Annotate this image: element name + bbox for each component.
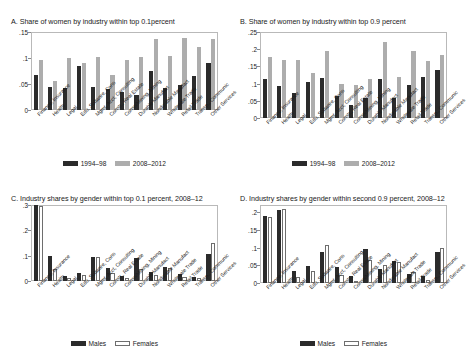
y-axis-tick-label: .3 [12, 202, 28, 209]
y-axis-tick-mark [257, 118, 259, 119]
panel-d-plot: 0.05.1.15.2Finance, InsuranceHealthLegal… [229, 177, 458, 354]
y-axis-tick-label: .1 [12, 55, 28, 62]
legend-swatch-icon [292, 161, 307, 165]
y-axis-tick-label: .25 [241, 29, 257, 36]
y-axis-tick-mark [28, 281, 30, 282]
y-axis-tick-label: .2 [241, 209, 257, 216]
bar [34, 75, 38, 110]
legend-label: 1994–98 [81, 160, 107, 167]
bar-group [31, 205, 45, 281]
legend-swatch-icon [63, 161, 78, 165]
y-axis-tick-label: .15 [241, 226, 257, 233]
y-axis-tick-label: .2 [12, 227, 28, 234]
legend-label: Females [362, 340, 387, 347]
y-axis-tick-label: .1 [241, 80, 257, 87]
bar-group [74, 32, 88, 110]
y-axis-tick-mark [257, 283, 259, 284]
bar [39, 206, 43, 281]
bar [268, 217, 272, 283]
bar-group [60, 32, 74, 110]
bar-group [31, 32, 45, 110]
bar [39, 60, 43, 110]
legend-item[interactable]: Females [344, 340, 387, 347]
legend-label: 1994–98 [310, 160, 336, 167]
y-axis-tick-label: .15 [12, 29, 28, 36]
y-axis-tick-label: 0 [241, 280, 257, 287]
bar-group [289, 32, 303, 118]
y-axis-tick-label: .05 [241, 262, 257, 269]
legend-item[interactable]: Males [300, 340, 335, 347]
y-axis-tick-label: .2 [241, 46, 257, 53]
legend-label: Males [89, 340, 107, 347]
bar [82, 63, 86, 110]
legend-swatch-icon [344, 341, 359, 345]
legend-item[interactable]: 2008–2012 [115, 160, 166, 167]
bar-group [260, 32, 274, 118]
y-axis-tick-label: 0 [12, 278, 28, 285]
panel-c: C. Industry shares by gender within top … [0, 177, 229, 354]
legend-swatch-icon [344, 161, 359, 165]
legend-label: 2008–2012 [362, 160, 395, 167]
bar [306, 82, 310, 118]
legend-swatch-icon [115, 341, 130, 345]
legend-swatch-icon [71, 341, 86, 345]
bar [263, 216, 267, 283]
legend-item[interactable]: Males [71, 340, 106, 347]
bar-group [303, 32, 317, 118]
bar [34, 205, 38, 281]
y-axis-tick-label: .1 [12, 252, 28, 259]
bar [311, 73, 315, 118]
y-axis-tick-label: 0 [241, 115, 257, 122]
legend-label: Males [318, 340, 336, 347]
legend: MalesFemales [229, 340, 458, 347]
legend-label: 2008–2012 [133, 160, 166, 167]
legend: MalesFemales [0, 340, 229, 347]
y-axis-tick-label: .15 [241, 63, 257, 70]
panel-b-plot: 0.05.1.15.2.25Finance, InsuranceHealthLe… [229, 0, 458, 177]
legend-swatch-icon [115, 161, 130, 165]
bar-group [260, 205, 274, 283]
legend: 1994–982008–2012 [229, 160, 458, 167]
bar-group [303, 205, 317, 283]
bar-group [289, 205, 303, 283]
panel-c-plot: 0.1.2.3Finance, InsuranceHealthLegalEdu,… [0, 177, 229, 354]
legend: 1994–982008–2012 [0, 160, 229, 167]
legend-item[interactable]: 2008–2012 [344, 160, 395, 167]
y-axis-tick-label: 0 [12, 107, 28, 114]
y-axis-tick-mark [28, 110, 30, 111]
y-axis-tick-label: .1 [241, 244, 257, 251]
bar [296, 60, 300, 118]
y-axis-tick-label: .05 [12, 81, 28, 88]
legend-swatch-icon [300, 341, 315, 345]
legend-item[interactable]: Females [115, 340, 158, 347]
panel-d: D. Industry shares by gender within seco… [229, 177, 458, 354]
bar [77, 66, 81, 110]
bar [263, 79, 267, 118]
bar-group [60, 205, 74, 281]
bar [268, 57, 272, 118]
y-axis-tick-label: .05 [241, 97, 257, 104]
bar-group [74, 205, 88, 281]
legend-label: Females [133, 340, 158, 347]
panel-b: B. Share of women by industry within top… [229, 0, 458, 177]
legend-item[interactable]: 1994–98 [292, 160, 335, 167]
panel-a: A. Share of women by industry within top… [0, 0, 229, 177]
legend-item[interactable]: 1994–98 [63, 160, 106, 167]
panel-a-plot: 0.05.1.15Finance, InsuranceHealthLegalEd… [0, 0, 229, 177]
